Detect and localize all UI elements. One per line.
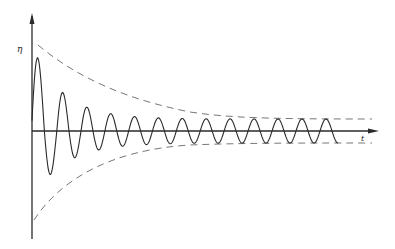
x-axis-label: t (361, 134, 364, 143)
lower-envelope (34, 143, 372, 220)
x-axis (32, 129, 379, 134)
damped-oscillation-diagram (0, 0, 395, 249)
y-axis (30, 13, 35, 239)
y-axis-label: η (17, 44, 22, 54)
oscillation-curve (32, 58, 338, 174)
